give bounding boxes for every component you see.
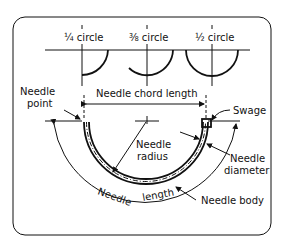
three-eighths-circle-arc: [129, 50, 173, 75]
needle-length-label-2: length: [141, 187, 174, 203]
needle-point-label-1: Needle: [20, 86, 55, 97]
quarter-circle-arc: [82, 50, 108, 75]
needle-diagram: ¼ circle ⅜ circle ½ circle Needle chord …: [0, 0, 284, 252]
needle-radius-label-2: radius: [137, 151, 168, 162]
half-circle-label: ½ circle: [195, 32, 234, 43]
needle-diameter-label-1: Needle: [230, 153, 265, 164]
needle-length-label-1: Needle: [96, 186, 133, 208]
quarter-circle-label: ¼ circle: [64, 32, 103, 43]
needle-point-label-2: point: [27, 98, 53, 109]
three-eighths-circle-label: ⅜ circle: [129, 32, 168, 43]
needle-diameter-label-2: diameter: [224, 165, 270, 176]
swage-label: Swage: [233, 105, 266, 116]
needle-body-label: Needle body: [201, 195, 264, 206]
chord-length-label: Needle chord length: [96, 88, 198, 99]
needle-radius-label-1: Needle: [136, 139, 171, 150]
